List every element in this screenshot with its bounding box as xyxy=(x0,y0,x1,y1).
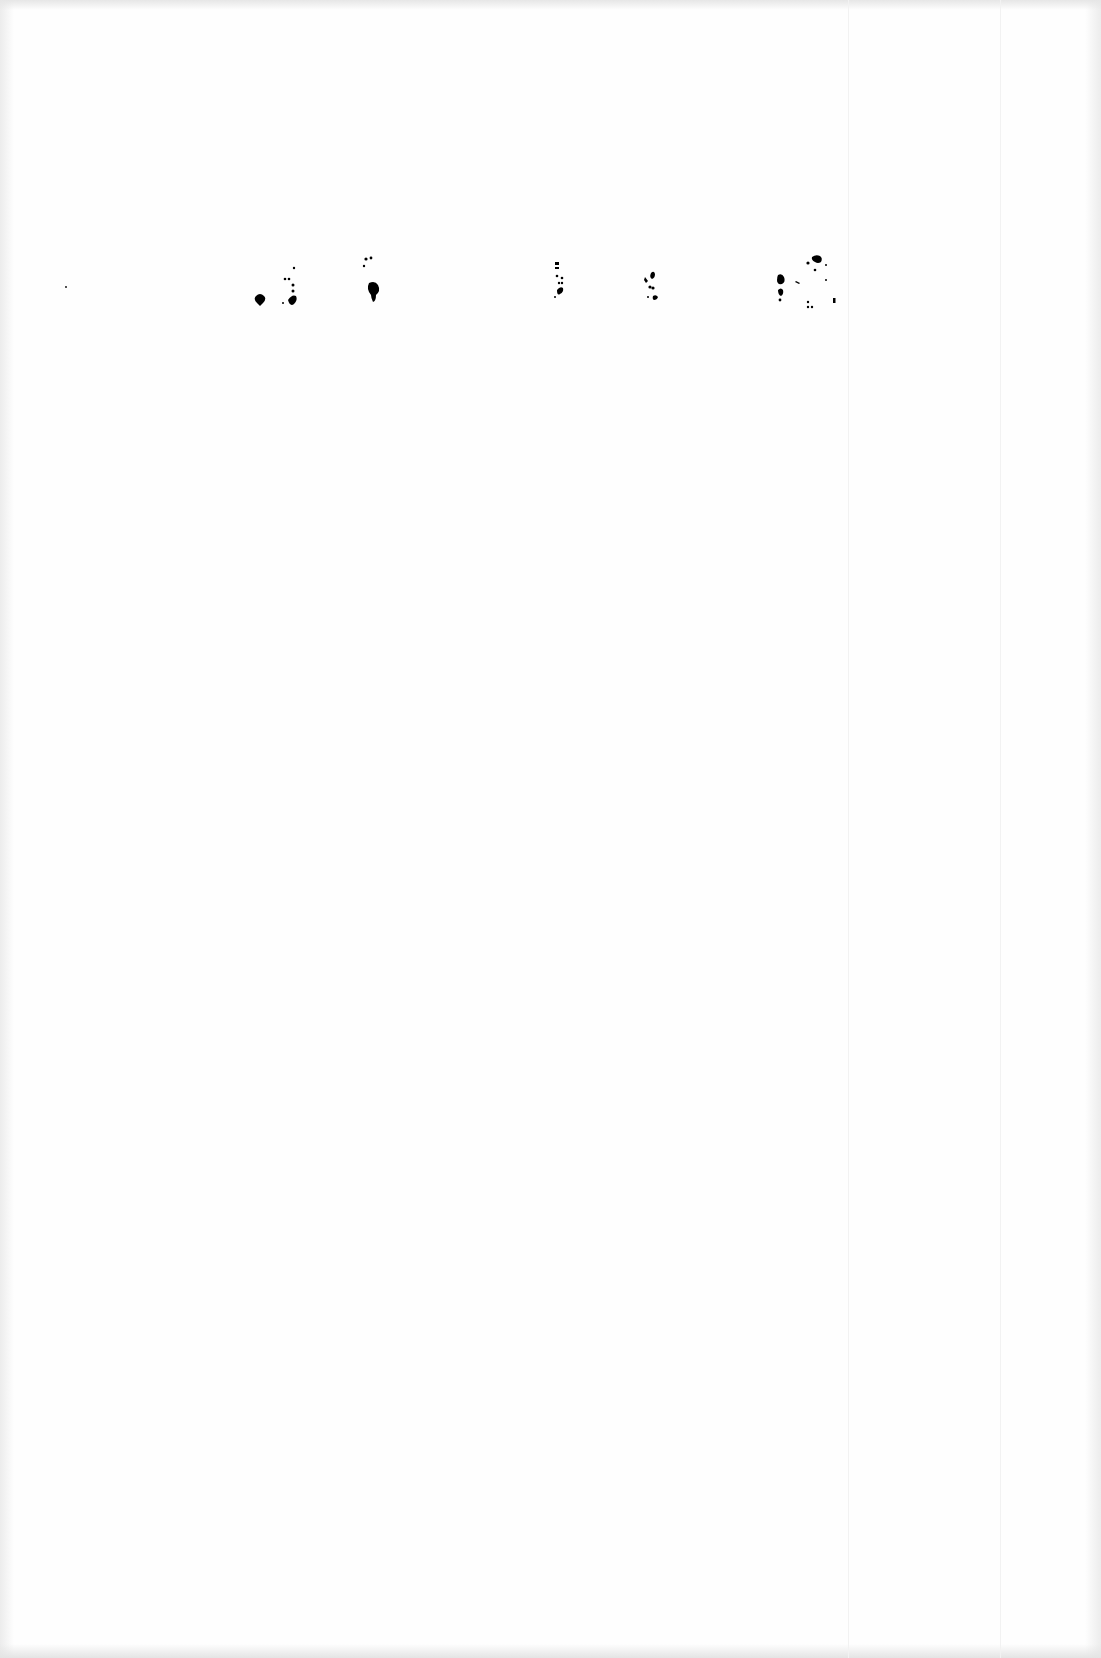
ink-speckles xyxy=(0,0,1101,400)
scan-edge-bottom xyxy=(0,1644,1101,1658)
scanned-page: Nearly blank scanned page with scattered… xyxy=(0,0,1101,1658)
